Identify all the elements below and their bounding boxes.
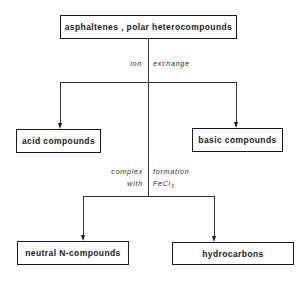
acid-compounds-box: acid compounds <box>16 129 101 153</box>
step2-method-right-line2: FeCl3 <box>153 180 175 189</box>
step2-method-right-line1: formation <box>153 168 189 175</box>
main-trunk-line <box>148 39 149 197</box>
lower-left-drop-line <box>83 196 84 236</box>
acid-compounds-label: acid compounds <box>22 136 95 146</box>
root-label: asphaltenes , polar heterocompounds <box>65 22 233 32</box>
step2-method-left-line1: complex <box>100 168 143 175</box>
upper-right-drop-line <box>236 82 237 123</box>
neutral-n-compounds-box: neutral N-compounds <box>17 241 129 265</box>
step1-method-left: ion <box>110 60 142 67</box>
lower-branch-line <box>83 196 215 197</box>
neutral-n-compounds-label: neutral N-compounds <box>25 248 120 258</box>
fecl-subscript: 3 <box>171 183 175 189</box>
fecl-text: FeCl <box>153 180 171 187</box>
basic-compounds-label: basic compounds <box>198 135 276 145</box>
step2-method-left-line2: with <box>100 180 143 187</box>
root-box-asphaltenes: asphaltenes , polar heterocompounds <box>60 15 237 39</box>
hydrocarbons-box: hydrocarbons <box>172 242 294 265</box>
upper-left-drop-line <box>60 82 61 124</box>
lower-right-drop-line <box>214 196 215 237</box>
upper-branch-line <box>60 82 237 83</box>
step1-method-right: exchange <box>153 60 190 67</box>
basic-compounds-box: basic compounds <box>192 128 283 152</box>
hydrocarbons-label: hydrocarbons <box>202 249 263 259</box>
